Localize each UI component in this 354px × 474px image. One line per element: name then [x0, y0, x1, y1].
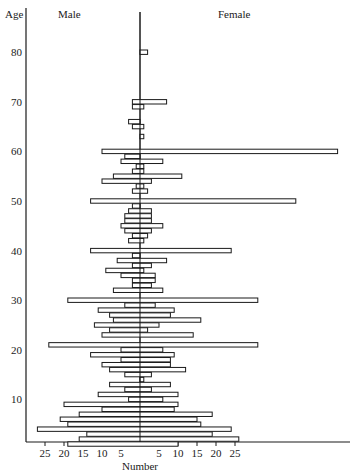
y-tick-label: 20: [11, 344, 23, 356]
age-bar: [91, 353, 175, 357]
y-tick-label: 80: [11, 46, 23, 58]
age-bar: [132, 278, 155, 282]
age-bar: [125, 229, 152, 233]
y-axis-label: Age: [5, 8, 23, 20]
x-tick-label: 5: [118, 447, 124, 459]
age-bar: [125, 214, 152, 218]
age-bar: [98, 308, 174, 312]
x-tick-label: 20: [211, 447, 223, 459]
x-tick-label: 15: [78, 447, 90, 459]
age-bar: [102, 362, 170, 366]
x-axis-label: Number: [122, 460, 158, 472]
age-bar: [87, 432, 212, 436]
age-bar: [102, 149, 338, 153]
age-bar: [102, 333, 193, 337]
age-bar: [125, 387, 152, 391]
y-tick-label: 70: [11, 96, 23, 108]
age-bar: [106, 268, 144, 272]
age-bar: [102, 179, 151, 183]
age-bar: [132, 169, 143, 173]
x-tick-label: 20: [59, 447, 71, 459]
age-bar: [64, 402, 178, 406]
x-tick-label: 25: [230, 447, 242, 459]
age-bar: [132, 100, 166, 104]
y-tick-label: 50: [11, 195, 23, 207]
age-bar: [132, 283, 151, 287]
age-bar: [60, 417, 197, 421]
x-tick-label: 15: [192, 447, 204, 459]
age-bar: [49, 343, 258, 347]
age-bar: [121, 273, 155, 277]
male-label: Male: [58, 8, 81, 20]
age-bar: [110, 328, 148, 332]
y-tick-label: 30: [11, 294, 23, 306]
age-bar: [91, 199, 296, 203]
age-bar: [125, 219, 152, 223]
age-bar: [121, 224, 163, 228]
age-bar: [121, 358, 170, 362]
age-bar: [117, 258, 166, 262]
age-bar: [132, 253, 140, 257]
age-bar: [140, 377, 144, 381]
x-tick-label: 10: [173, 447, 185, 459]
age-bar: [125, 372, 152, 376]
age-bar: [113, 288, 162, 292]
age-bar: [132, 124, 143, 128]
age-bar: [113, 318, 200, 322]
age-bar: [129, 397, 163, 401]
y-tick-label: 60: [11, 145, 23, 157]
x-tick-label: 5: [156, 447, 162, 459]
age-bar: [140, 50, 148, 54]
age-bar: [129, 119, 140, 123]
x-tick-label: 10: [97, 447, 109, 459]
age-bar: [110, 367, 186, 371]
age-bar: [79, 412, 212, 416]
age-bar: [91, 248, 232, 252]
bars: [37, 12, 337, 446]
age-bar: [94, 323, 159, 327]
y-tick-label: 40: [11, 245, 23, 257]
age-bar: [102, 407, 174, 411]
age-bar: [68, 442, 178, 446]
age-bar: [129, 238, 144, 242]
age-bar: [125, 154, 140, 158]
population-pyramid-chart: 1020304050607080252015105510152025 Age M…: [0, 0, 354, 474]
age-bar: [132, 263, 151, 267]
age-bar: [121, 159, 163, 163]
female-label: Female: [218, 8, 250, 20]
age-bar: [121, 348, 163, 352]
age-bar: [68, 298, 258, 302]
y-tick-label: 10: [11, 393, 23, 405]
age-bar: [113, 174, 181, 178]
age-bar: [140, 134, 144, 138]
age-bar: [98, 392, 178, 396]
x-tick-label: 25: [40, 447, 52, 459]
age-bar: [132, 105, 143, 109]
age-bar: [132, 204, 140, 208]
age-bar: [79, 437, 239, 441]
axes: 1020304050607080252015105510152025: [11, 8, 350, 459]
age-bar: [37, 427, 231, 431]
age-bar: [68, 422, 201, 426]
